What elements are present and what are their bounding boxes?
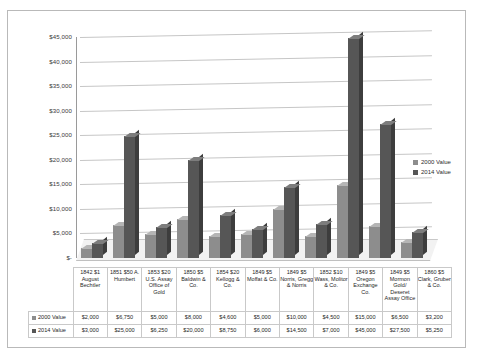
bar-2014[interactable] (188, 160, 199, 258)
y-axis-tick-label: $25,000 (16, 131, 72, 138)
bar-2000[interactable] (81, 248, 92, 258)
table-column-header: 1849 $5 Moffat & Co. (245, 268, 279, 312)
table-cell-value: $5,250 (417, 325, 451, 338)
bar-front-face (401, 242, 412, 258)
bar-side-face (231, 209, 235, 255)
table-cell-value: $8,000 (176, 312, 210, 325)
bar-front-face (124, 136, 135, 258)
bar-2000[interactable] (209, 236, 220, 258)
bar-2014[interactable] (252, 229, 263, 258)
bar-front-face (92, 243, 103, 258)
bar-group (76, 37, 108, 259)
y-axis-tick-labels: $45,000$40,000$35,000$30,000$25,000$20,0… (16, 11, 72, 273)
bar-front-face (316, 224, 327, 258)
table-cell-value: $5,000 (142, 312, 176, 325)
table-row-header: 2014 Value (29, 325, 74, 338)
bar-front-face (380, 124, 391, 258)
bar-2000[interactable] (145, 234, 156, 258)
bar-front-face (348, 38, 359, 258)
y-axis-tick-label: $35,000 (16, 82, 72, 89)
bar-2014[interactable] (92, 243, 103, 258)
bar-2014[interactable] (156, 227, 167, 258)
bar-2014[interactable] (348, 38, 359, 258)
table-cell-value: $2,000 (73, 312, 107, 325)
bar-front-face (220, 215, 231, 258)
y-axis-tick-label: $10,000 (16, 205, 72, 212)
bar-2014[interactable] (412, 232, 423, 258)
bar-2000[interactable] (305, 236, 316, 258)
bar-front-face (177, 219, 188, 258)
bar-front-face (412, 232, 423, 258)
bar-2000[interactable] (177, 219, 188, 258)
bar-2000[interactable] (337, 185, 348, 258)
bar-group (140, 37, 172, 259)
bar-front-face (369, 226, 380, 258)
bar-2014[interactable] (124, 136, 135, 258)
table-cell-value: $6,500 (383, 312, 417, 325)
bar-front-face (156, 227, 167, 258)
table-row-categories: 1842 $1 August Bechtler1851 $50 A. Humbe… (29, 268, 452, 312)
y-axis-tick-label: $20,000 (16, 156, 72, 163)
legend-label: 2000 Value (421, 157, 451, 167)
bar-2000[interactable] (273, 209, 284, 258)
bar-front-face (252, 229, 263, 258)
chart-legend: 2000 Value 2014 Value (413, 157, 463, 177)
table-cell-value: $45,000 (348, 325, 382, 338)
bar-group (364, 37, 396, 259)
bar-front-face (337, 185, 348, 258)
table-cell-value: $14,500 (279, 325, 313, 338)
table-column-header: 1852 $10 Wass, Molitor & Co. (314, 268, 348, 312)
bar-group (300, 37, 332, 259)
table-cell-value: $7,000 (314, 325, 348, 338)
table-cell-value: $15,000 (348, 312, 382, 325)
y-axis-tick-label: $15,000 (16, 180, 72, 187)
table-cell-value: $6,750 (107, 312, 141, 325)
bar-2014[interactable] (316, 224, 327, 258)
bar-front-face (273, 209, 284, 258)
bar-group (204, 37, 236, 259)
bar-side-face (199, 154, 203, 255)
bar-side-face (391, 117, 395, 255)
legend-label: 2014 Value (421, 167, 451, 177)
bar-2000[interactable] (113, 225, 124, 258)
bar-front-face (305, 236, 316, 258)
table-corner-cell (29, 268, 74, 312)
table-cell-value: $4,600 (211, 312, 245, 325)
bar-front-face (81, 248, 92, 258)
bar-2014[interactable] (284, 187, 295, 258)
table-cell-value: $20,000 (176, 325, 210, 338)
table-cell-value: $4,500 (314, 312, 348, 325)
bar-side-face (135, 130, 139, 255)
bar-group (332, 37, 364, 259)
bar-front-face (209, 236, 220, 258)
y-axis-tick-label: $5,000 (16, 229, 72, 236)
bar-2000[interactable] (369, 226, 380, 258)
bar-2000[interactable] (401, 242, 412, 258)
table-cell-value: $3,000 (73, 325, 107, 338)
bar-side-face (359, 32, 363, 255)
table-column-header: 1849 $5 Norris, Gregg & Norris (279, 268, 313, 312)
chart-plot-area: $45,000$40,000$35,000$30,000$25,000$20,0… (8, 11, 467, 273)
bar-front-face (284, 187, 295, 258)
table-row: 2014 Value$3,000$25,000$6,250$20,000$8,7… (29, 325, 452, 338)
table-cell-value: $10,000 (279, 312, 313, 325)
table-cell-value: $5,000 (245, 312, 279, 325)
bar-group (396, 37, 428, 259)
legend-swatch-icon (413, 170, 418, 175)
bar-2014[interactable] (380, 124, 391, 258)
bar-2014[interactable] (220, 215, 231, 258)
legend-item-2000[interactable]: 2000 Value (413, 157, 463, 167)
y-axis-tick-label: $40,000 (16, 58, 72, 65)
legend-item-2014[interactable]: 2014 Value (413, 167, 463, 177)
data-table-body: 1842 $1 August Bechtler1851 $50 A. Humbe… (29, 268, 452, 338)
table-column-header: 1849 $5 Mormon Gold/ Deseret Assay Offic… (383, 268, 417, 312)
legend-swatch-icon (413, 160, 418, 165)
bar-2000[interactable] (241, 234, 252, 258)
y-axis-tick-label: $45,000 (16, 33, 72, 40)
bar-front-face (145, 234, 156, 258)
table-column-header: 1854 $20 Kellogg & Co. (211, 268, 245, 312)
table-column-header: 1849 $5 Oregon Exchange Co. (348, 268, 382, 312)
table-column-header: 1853 $20 U.S. Assay Office of Gold (142, 268, 176, 312)
table-series-swatch-icon (32, 329, 36, 333)
table-row-header: 2000 Value (29, 312, 74, 325)
